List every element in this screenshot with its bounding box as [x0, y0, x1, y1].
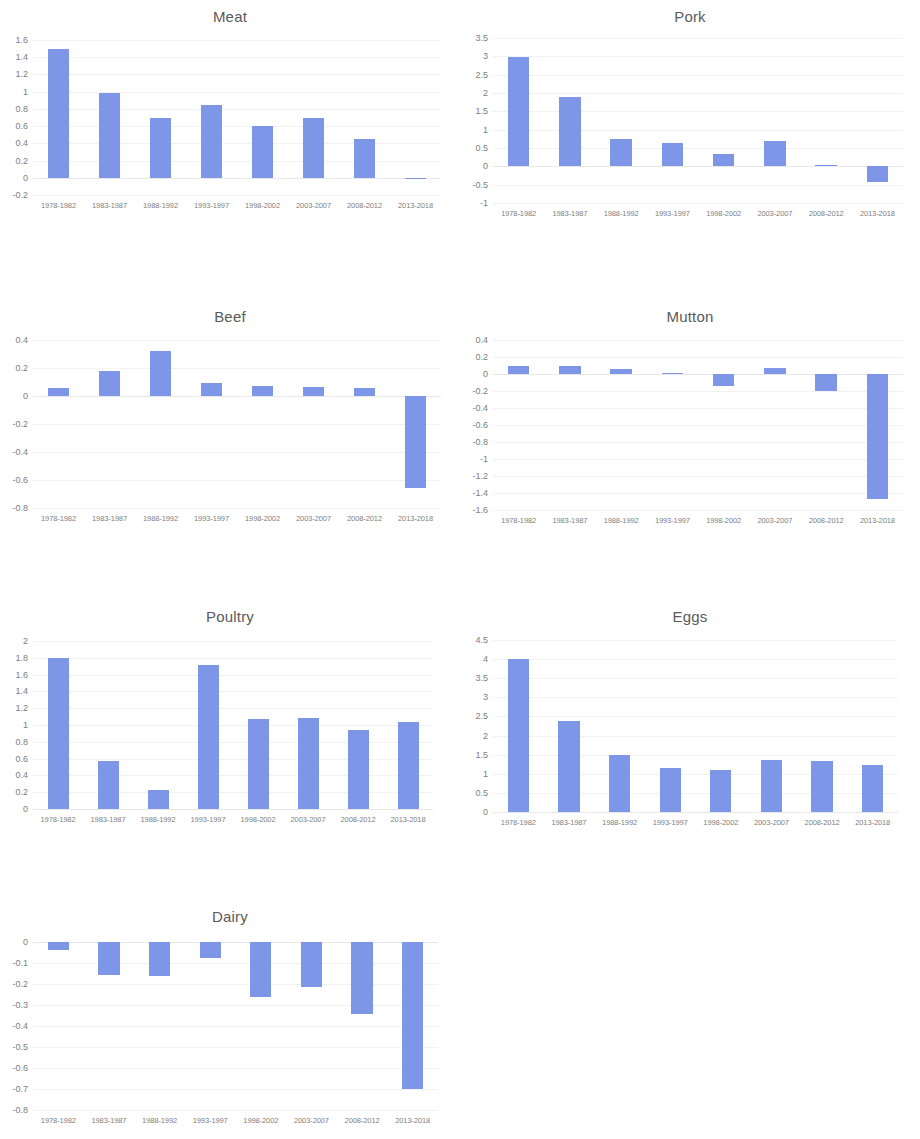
y-axis-tick-label: 3: [483, 693, 493, 702]
gridline: [33, 963, 438, 964]
gridline: [33, 92, 441, 93]
y-axis-tick-label: 1.2: [15, 704, 33, 713]
gridline: [33, 109, 441, 110]
bar: [610, 369, 632, 374]
x-axis-tick-label: 1988-1992: [143, 515, 178, 523]
x-axis-tick-label: 1978-1982: [501, 819, 536, 827]
x-axis-tick-label: 1983-1987: [92, 515, 127, 523]
gridline: [33, 691, 433, 692]
y-axis-tick-label: 0: [483, 808, 493, 817]
x-axis-tick-label: 2008-2012: [809, 210, 844, 218]
x-axis-tick-label: 2008-2012: [345, 1117, 380, 1125]
y-axis-tick-label: -1: [480, 455, 493, 464]
bar: [815, 374, 837, 391]
y-axis-tick-label: 3.5: [475, 34, 493, 43]
y-axis-tick-label: 0.8: [15, 737, 33, 746]
gridline: [493, 678, 898, 679]
x-axis-tick-label: 1998-2002: [245, 515, 280, 523]
bar: [303, 387, 324, 396]
chart-title: Poultry: [0, 608, 460, 625]
x-axis-tick-label: 2003-2007: [757, 210, 792, 218]
gridline: [33, 40, 441, 41]
gridline: [493, 476, 903, 477]
y-axis-tick-label: 3.5: [475, 674, 493, 683]
x-axis-tick-label: 1983-1987: [552, 517, 587, 525]
chart-title: Pork: [460, 8, 920, 25]
x-axis-tick-label: 1993-1997: [193, 1117, 228, 1125]
x-axis-tick-label: 1993-1997: [194, 202, 229, 210]
bar: [301, 942, 322, 987]
y-axis-tick-label: 0.2: [15, 788, 33, 797]
x-axis-tick-label: 1998-2002: [706, 517, 741, 525]
gridline: [493, 111, 903, 112]
bar: [348, 730, 369, 809]
gridline: [493, 736, 898, 737]
y-axis-tick-label: 1: [23, 721, 33, 730]
gridline: [493, 130, 903, 131]
chart-title: Dairy: [0, 908, 460, 925]
y-axis-tick-label: 4.5: [475, 636, 493, 645]
bar: [405, 178, 426, 179]
chart-panel-mutton: Mutton0.40.20-0.2-0.4-0.6-0.8-1-1.2-1.4-…: [460, 300, 920, 600]
x-axis-tick-label: 1978-1982: [41, 816, 76, 824]
y-axis-tick-label: 1: [483, 769, 493, 778]
gridline: [33, 809, 433, 810]
x-axis-tick-label: 1978-1982: [501, 210, 536, 218]
y-axis-tick-label: 0.2: [15, 156, 33, 165]
y-axis-tick-label: -0.5: [12, 1043, 33, 1052]
x-axis-tick-label: 1993-1997: [191, 816, 226, 824]
y-axis-tick-label: 1.4: [15, 53, 33, 62]
bar: [48, 388, 69, 396]
y-axis-tick-label: 1.6: [15, 670, 33, 679]
plot-area: 4.543.532.521.510.50: [493, 640, 898, 812]
gridline: [33, 725, 433, 726]
chart-title: Meat: [0, 8, 460, 25]
y-axis-tick-label: 0: [23, 938, 33, 947]
bar: [303, 118, 324, 177]
y-axis-tick-label: 0.5: [475, 144, 493, 153]
y-axis-tick-label: -0.2: [12, 191, 33, 200]
gridline: [493, 185, 903, 186]
gridline: [493, 93, 903, 94]
x-axis-tick-label: 2013-2018: [855, 819, 890, 827]
bar: [351, 942, 372, 1014]
y-axis-tick-label: -0.4: [12, 448, 33, 457]
gridline: [33, 368, 441, 369]
x-axis-tick-label: 1978-1982: [41, 202, 76, 210]
bar: [558, 721, 579, 812]
x-axis-tick-label: 1993-1997: [655, 517, 690, 525]
gridline: [33, 1026, 438, 1027]
gridline: [33, 480, 441, 481]
bar: [405, 396, 426, 488]
bar: [761, 760, 782, 812]
bar: [248, 719, 269, 809]
bar: [867, 374, 889, 499]
bar: [609, 755, 630, 812]
y-axis-tick-label: 0.2: [15, 364, 33, 373]
x-axis-tick-label: 2013-2018: [395, 1117, 430, 1125]
y-axis-tick-label: 0.4: [15, 336, 33, 345]
gridline: [33, 942, 438, 943]
x-axis-tick-label: 2013-2018: [860, 517, 895, 525]
gridline: [493, 203, 903, 204]
gridline: [493, 755, 898, 756]
y-axis-tick-label: 0: [23, 392, 33, 401]
chart-panel-meat: Meat1.61.41.210.80.60.40.20-0.21978-1982…: [0, 0, 460, 300]
chart-panel-dairy: Dairy0-0.1-0.2-0.3-0.4-0.5-0.6-0.7-0.819…: [0, 900, 460, 1139]
x-axis-tick-label: 1983-1987: [92, 202, 127, 210]
bar: [811, 761, 832, 812]
bar: [298, 718, 319, 809]
x-axis-tick-label: 2008-2012: [347, 515, 382, 523]
x-axis-tick-label: 2008-2012: [347, 202, 382, 210]
x-axis-labels: 1978-19821983-19871988-19921993-19971998…: [33, 515, 441, 529]
gridline: [33, 759, 433, 760]
bar: [559, 366, 581, 374]
x-axis-tick-label: 1998-2002: [243, 1117, 278, 1125]
y-axis-tick-label: -0.8: [12, 1106, 33, 1115]
plot-area: 3.532.521.510.50-0.5-1: [493, 38, 903, 203]
gridline: [493, 510, 903, 511]
y-axis-tick-label: 2.5: [475, 712, 493, 721]
x-axis-tick-label: 2003-2007: [296, 515, 331, 523]
chart-title: Mutton: [460, 308, 920, 325]
y-axis-tick-label: 3: [483, 52, 493, 61]
